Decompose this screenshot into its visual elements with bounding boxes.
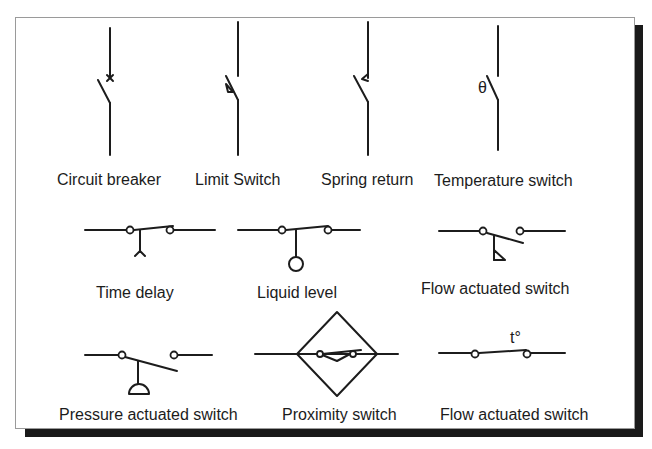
temperature-flow-switch-symbol: t° bbox=[439, 329, 565, 358]
flow-actuated-switch-label: Flow actuated switch bbox=[421, 280, 570, 297]
temperature-switch-symbol: θ bbox=[478, 26, 498, 150]
pressure-actuated-switch-label: Pressure actuated switch bbox=[59, 406, 238, 423]
flow-actuated-switch-2-label: Flow actuated switch bbox=[440, 406, 589, 423]
pressure-diaphragm-icon bbox=[129, 384, 149, 394]
switch-symbols-diagram: Circuit breaker Limit Switch Spring retu… bbox=[0, 0, 652, 449]
liquid-level-symbol bbox=[238, 226, 360, 271]
time-delay-label: Time delay bbox=[96, 284, 174, 301]
circuit-breaker-label: Circuit breaker bbox=[57, 171, 162, 188]
spring-return-symbol bbox=[354, 22, 368, 155]
limit-switch-label: Limit Switch bbox=[195, 171, 280, 188]
circuit-breaker-symbol bbox=[98, 28, 113, 155]
limit-switch-symbol bbox=[226, 22, 238, 155]
proximity-switch-symbol bbox=[255, 312, 398, 396]
temperature-switch-label: Temperature switch bbox=[434, 172, 573, 189]
float-icon bbox=[289, 257, 303, 271]
theta-marker: θ bbox=[478, 79, 487, 96]
flow-actuated-switch-symbol bbox=[439, 228, 565, 261]
flow-vane-icon bbox=[494, 250, 505, 260]
time-delay-symbol bbox=[85, 226, 215, 256]
t-degree-marker: t° bbox=[510, 329, 521, 346]
delay-arrow-icon bbox=[135, 251, 145, 256]
spring-return-label: Spring return bbox=[321, 171, 414, 188]
liquid-level-label: Liquid level bbox=[257, 284, 337, 301]
pressure-actuated-switch-symbol bbox=[85, 352, 212, 395]
proximity-switch-label: Proximity switch bbox=[282, 406, 397, 423]
